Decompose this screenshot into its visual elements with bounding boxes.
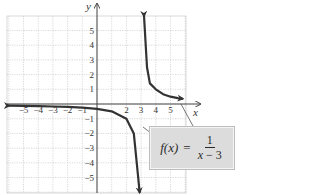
y-axis-label: y (85, 0, 91, 12)
pointer-line-upper (181, 104, 193, 126)
curve-right-branch (144, 16, 182, 99)
x-tick-label: 4 (154, 105, 159, 115)
x-tick-label: 5 (168, 105, 173, 115)
y-tick-label: 2 (90, 70, 95, 80)
denominator-rest: − 3 (203, 148, 222, 162)
y-tick-label: −5 (84, 173, 94, 183)
x-tick-label: 3 (139, 105, 144, 115)
y-tick-label: −1 (84, 114, 94, 124)
fraction: 1 x − 3 (196, 134, 224, 162)
y-tick-label: 4 (90, 40, 95, 50)
x-axis-label: x (192, 106, 198, 118)
equals-sign: = (183, 140, 190, 156)
numerator: 1 (205, 134, 215, 148)
y-tick-label: −2 (84, 128, 94, 138)
y-tick-label: −4 (84, 158, 94, 168)
y-tick-label: 5 (90, 26, 95, 36)
denominator: x − 3 (196, 148, 224, 162)
y-tick-label: 1 (90, 84, 95, 94)
y-tick-label: −3 (84, 143, 94, 153)
x-tick-label: 2 (124, 105, 129, 115)
y-tick-label: 3 (90, 55, 95, 65)
function-label-box: f(x) = 1 x − 3 (150, 127, 234, 169)
function-name: f(x) (160, 140, 178, 156)
